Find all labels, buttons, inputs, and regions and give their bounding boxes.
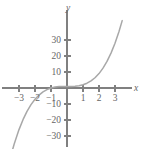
x-tick-label: 3 [113,93,118,103]
x-tick-label: 1 [81,93,86,103]
y-axis-name-label: y [65,3,71,13]
x-tick-label: −2 [30,93,40,103]
y-tick-label: 20 [52,51,62,61]
plot-area: −3−2−1123302010−10−20−30 xy [0,0,142,149]
cubic-function-graph: −3−2−1123302010−10−20−30 xy [0,0,142,149]
y-tick-label: −30 [46,131,61,141]
x-tick-label: −3 [14,93,24,103]
x-tick-label: 2 [97,93,102,103]
y-tick-label: −20 [46,115,61,125]
x-axis-name-label: x [133,83,139,93]
y-tick-label: 30 [52,35,62,45]
y-tick-label: 10 [52,67,62,77]
axis-names-group: xy [65,3,139,93]
axes-group [2,10,132,147]
y-tick-label: −10 [46,99,61,109]
